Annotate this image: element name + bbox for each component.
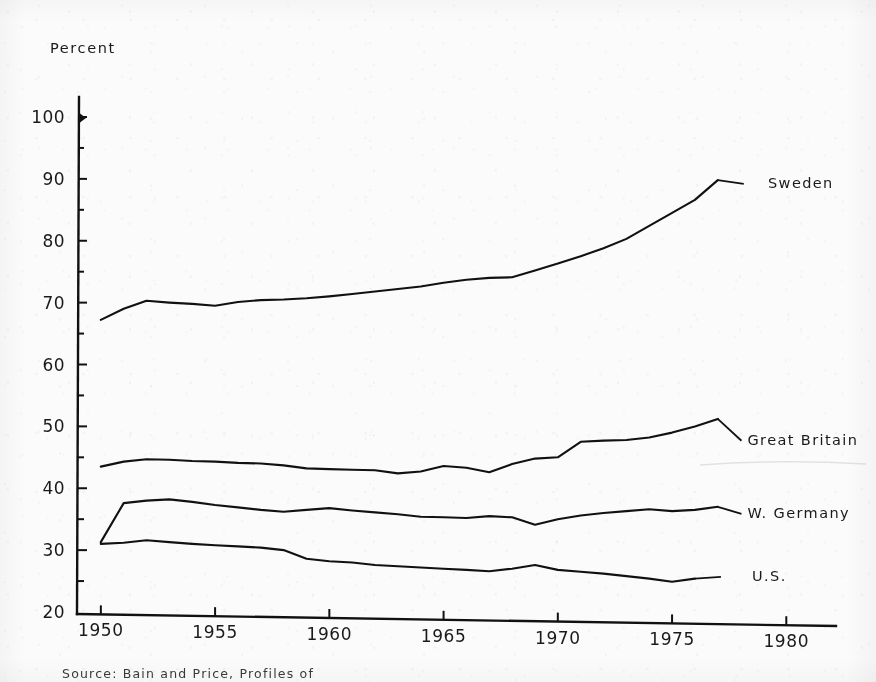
y-tick-label: 90 <box>43 169 65 189</box>
x-tick-label: 1965 <box>421 626 467 646</box>
y-tick-label: 100 <box>31 107 65 127</box>
source-note: Source: Bain and Price, Profiles of <box>62 666 314 681</box>
line-chart: Percent 2030405060708090100 195019551960… <box>0 0 876 682</box>
y-axis-tick-labels: 2030405060708090100 <box>31 107 65 622</box>
series-labels-group: SwedenGreat BritainW. GermanyU.S. <box>695 175 858 584</box>
x-axis-line <box>77 614 836 626</box>
series-label-w-germany: W. Germany <box>747 505 850 521</box>
y-tick-label: 30 <box>43 540 65 560</box>
x-tick-label: 1975 <box>649 629 695 649</box>
x-tick-label: 1970 <box>535 628 581 648</box>
y-tick-label: 50 <box>43 416 65 436</box>
series-line-u-s <box>101 540 695 582</box>
x-tick-label: 1960 <box>306 624 352 644</box>
series-line-great-britain <box>101 419 718 474</box>
series-line-sweden <box>101 180 718 320</box>
y-tick-label: 20 <box>43 602 65 622</box>
scanned-figure-page: Percent 2030405060708090100 195019551960… <box>0 0 876 682</box>
series-label-u-s: U.S. <box>752 568 787 584</box>
series-leader-line <box>718 180 744 184</box>
scan-smudge <box>700 462 866 465</box>
series-leader-line <box>695 577 721 579</box>
y-axis-line <box>77 97 79 614</box>
series-label-sweden: Sweden <box>768 175 834 191</box>
series-line-w-germany <box>101 499 718 542</box>
y-axis-unit-label: Percent <box>50 40 116 56</box>
y-tick-label: 80 <box>43 231 65 251</box>
y-tick-label: 40 <box>43 478 65 498</box>
y-tick-label: 60 <box>43 355 65 375</box>
series-lines-group <box>101 180 718 582</box>
series-leader-line <box>718 507 742 514</box>
x-tick-label: 1980 <box>763 631 809 651</box>
x-tick-label: 1955 <box>192 622 238 642</box>
x-tick-label: 1950 <box>78 620 124 640</box>
y-tick-label: 70 <box>43 293 65 313</box>
series-label-great-britain: Great Britain <box>747 432 858 448</box>
series-leader-line <box>718 419 742 441</box>
